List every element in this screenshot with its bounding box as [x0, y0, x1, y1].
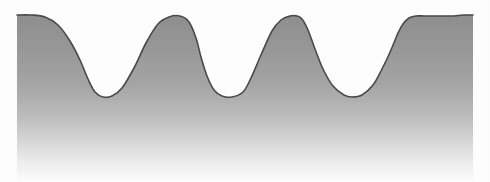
- figure-container: Corrugated surface profile Cross-section…: [0, 0, 490, 182]
- corrugated-surface-figure: Corrugated surface profile Cross-section…: [0, 0, 490, 182]
- surface-body: [17, 15, 473, 182]
- surface-fill: [17, 15, 473, 182]
